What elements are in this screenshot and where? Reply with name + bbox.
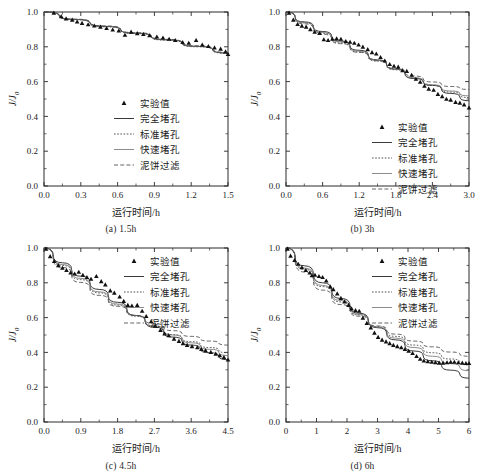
x-tick-label: 0.0 bbox=[38, 190, 50, 200]
data-point bbox=[458, 101, 463, 105]
legend-label-rapid_blocking: 快速堵孔 bbox=[398, 302, 438, 313]
curve-cake_filtration bbox=[286, 12, 469, 89]
x-tick-label: 6 bbox=[467, 426, 472, 436]
data-point bbox=[144, 314, 149, 318]
x-tick-label: 3.6 bbox=[186, 426, 198, 436]
x-tick-label: 5 bbox=[436, 426, 441, 436]
data-point bbox=[460, 361, 465, 365]
curve-standard_blocking bbox=[286, 248, 469, 365]
data-point bbox=[378, 55, 383, 59]
panel-a: 0.00.30.60.91.21.50.00.20.40.60.81.0运行时间… bbox=[0, 0, 242, 236]
y-tick-label: 0.4 bbox=[27, 348, 39, 358]
legend-label-rapid_blocking: 快速堵孔 bbox=[150, 302, 190, 313]
data-point bbox=[162, 331, 167, 335]
data-point bbox=[396, 65, 401, 69]
x-tick-label: 0.9 bbox=[75, 426, 87, 436]
panel-d-caption: (d) 6h bbox=[242, 461, 483, 471]
legend-label-cake_filtration: 泥饼过滤 bbox=[150, 318, 190, 329]
y-tick-label: 0.0 bbox=[269, 181, 281, 191]
y-tick-label: 0.4 bbox=[269, 112, 281, 122]
legend-label-complete_blocking: 完全堵孔 bbox=[398, 271, 438, 282]
x-tick-label: 3 bbox=[375, 426, 380, 436]
data-point bbox=[103, 282, 108, 286]
plot-frame bbox=[44, 12, 228, 186]
legend-label-experimental: 实验值 bbox=[140, 98, 170, 109]
x-axis-title: 运行时间/h bbox=[354, 206, 402, 218]
x-tick-label: 1.2 bbox=[186, 190, 197, 200]
legend-label-rapid_blocking: 快速堵孔 bbox=[140, 144, 180, 155]
y-tick-label: 0.2 bbox=[269, 382, 280, 392]
data-point bbox=[395, 344, 400, 348]
data-point bbox=[155, 34, 160, 38]
data-point bbox=[135, 303, 140, 307]
data-point bbox=[440, 94, 445, 98]
y-tick-label: 0.6 bbox=[27, 313, 39, 323]
legend-label-standard_blocking: 标准堵孔 bbox=[140, 129, 180, 140]
svg-text:J/J0: J/J0 bbox=[8, 91, 21, 106]
y-tick-label: 0.0 bbox=[269, 417, 281, 427]
data-point bbox=[292, 258, 297, 262]
data-point bbox=[206, 44, 211, 48]
data-point bbox=[448, 360, 453, 364]
data-point bbox=[399, 345, 404, 349]
data-point bbox=[387, 62, 392, 66]
panel-a-caption: (a) 1.5h bbox=[0, 224, 242, 234]
y-axis-title: J/J0 bbox=[250, 327, 263, 342]
y-tick-label: 0.4 bbox=[27, 112, 39, 122]
data-point bbox=[467, 361, 472, 365]
curve-complete_blocking bbox=[44, 248, 228, 360]
curve-standard_blocking bbox=[44, 248, 228, 353]
data-point bbox=[330, 37, 335, 41]
data-point bbox=[426, 87, 431, 91]
data-point bbox=[308, 27, 313, 31]
data-point bbox=[89, 277, 94, 281]
data-point bbox=[76, 270, 81, 274]
legend-label-experimental: 实验值 bbox=[398, 122, 428, 133]
x-tick-label: 3.0 bbox=[463, 190, 475, 200]
y-tick-label: 0.8 bbox=[27, 278, 39, 288]
data-point bbox=[444, 97, 449, 101]
data-point bbox=[295, 22, 300, 26]
data-point bbox=[140, 309, 145, 313]
legend-label-cake_filtration: 泥饼过滤 bbox=[140, 160, 180, 171]
data-point bbox=[48, 254, 53, 258]
x-tick-label: 2 bbox=[345, 426, 350, 436]
legend-marker-experimental bbox=[380, 125, 385, 129]
x-tick-label: 0.9 bbox=[149, 190, 161, 200]
data-point bbox=[372, 331, 377, 335]
panel-c-plot: 0.00.91.82.73.64.50.00.20.40.60.81.0运行时间… bbox=[0, 236, 242, 473]
data-point bbox=[288, 254, 293, 258]
data-point bbox=[194, 38, 199, 42]
data-point bbox=[177, 339, 182, 343]
data-point bbox=[121, 299, 126, 303]
experimental-points bbox=[285, 247, 471, 365]
data-point bbox=[380, 338, 385, 342]
panel-b: 0.00.61.21.82.43.00.00.20.40.60.81.0运行时间… bbox=[242, 0, 483, 236]
data-point bbox=[129, 30, 134, 34]
panel-d: 01234560.00.20.40.60.81.0运行时间/hJ/J0实验值完全… bbox=[242, 236, 483, 473]
y-tick-label: 0.2 bbox=[27, 146, 38, 156]
y-tick-label: 0.8 bbox=[27, 42, 39, 52]
data-point bbox=[376, 335, 381, 339]
legend-marker-experimental bbox=[380, 259, 385, 263]
x-axis-title: 运行时间/h bbox=[112, 442, 160, 454]
data-point bbox=[94, 274, 99, 278]
data-point bbox=[110, 27, 115, 31]
data-point bbox=[361, 45, 366, 49]
data-point bbox=[322, 37, 327, 41]
panel-c: 0.00.91.82.73.64.50.00.20.40.60.81.0运行时间… bbox=[0, 236, 242, 473]
y-tick-label: 0.0 bbox=[27, 181, 39, 191]
data-point bbox=[209, 350, 214, 354]
x-tick-label: 0.3 bbox=[75, 190, 87, 200]
data-point bbox=[339, 37, 344, 41]
x-tick-label: 0.6 bbox=[112, 190, 124, 200]
x-tick-label: 2.7 bbox=[149, 426, 161, 436]
data-point bbox=[99, 279, 104, 283]
data-point bbox=[418, 357, 423, 361]
data-point bbox=[223, 49, 228, 53]
y-tick-label: 1.0 bbox=[269, 243, 281, 253]
data-point bbox=[320, 275, 325, 279]
data-point bbox=[304, 24, 309, 28]
curve-rapid_blocking bbox=[44, 248, 228, 356]
y-tick-label: 0.6 bbox=[269, 313, 281, 323]
